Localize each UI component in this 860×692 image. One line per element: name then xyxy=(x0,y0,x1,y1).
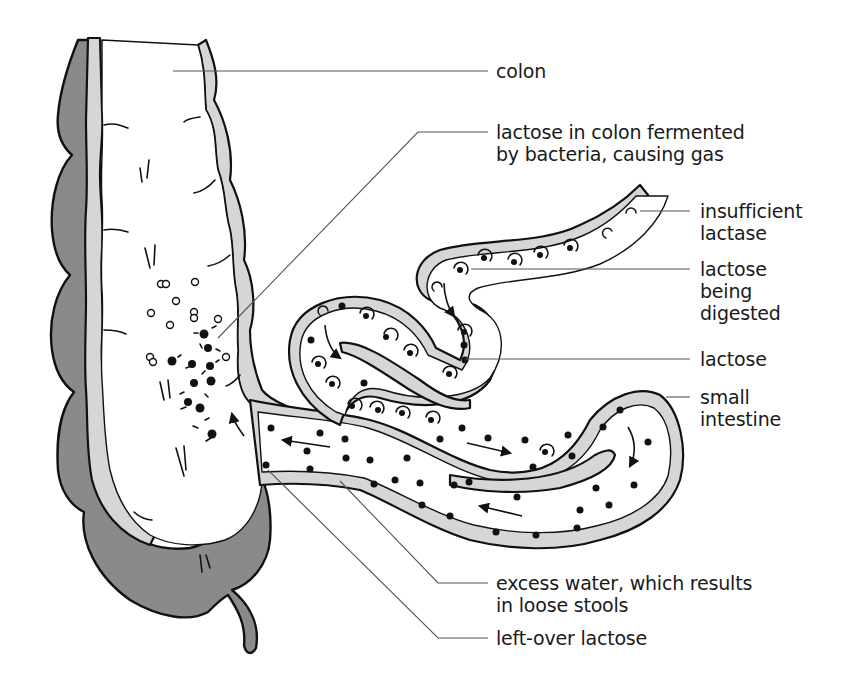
label-insufficient-lactase: insufficient lactase xyxy=(700,200,802,244)
label-line: insufficient xyxy=(700,200,802,222)
label-lactose-fermented: lactose in colon fermented by bacteria, … xyxy=(496,121,745,165)
label-small-intestine: small intestine xyxy=(700,386,781,430)
label-line: lactose in colon fermented xyxy=(496,121,745,143)
label-lactose-being-digested: lactose being digested xyxy=(700,258,781,324)
colon-illustration xyxy=(51,38,330,653)
label-line: small xyxy=(700,386,781,408)
label-line: colon xyxy=(496,60,546,82)
label-line: excess water, which results xyxy=(496,572,752,594)
label-leftover-lactose: left-over lactose xyxy=(496,627,647,649)
label-line: left-over lactose xyxy=(496,627,647,649)
label-line: lactose xyxy=(700,348,767,370)
label-line: in loose stools xyxy=(496,594,752,616)
small-intestine-illustration xyxy=(250,185,683,548)
label-line: being xyxy=(700,280,781,302)
label-line: by bacteria, causing gas xyxy=(496,143,745,165)
label-colon: colon xyxy=(496,60,546,82)
label-line: digested xyxy=(700,302,781,324)
label-line: lactase xyxy=(700,222,802,244)
label-excess-water: excess water, which results in loose sto… xyxy=(496,572,752,616)
label-line: lactose xyxy=(700,258,781,280)
label-lactose: lactose xyxy=(700,348,767,370)
label-line: intestine xyxy=(700,408,781,430)
